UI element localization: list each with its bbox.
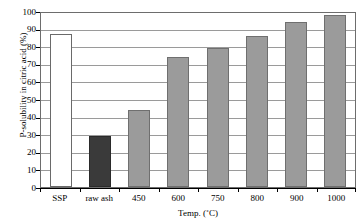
x-axis-tick-marks — [40, 188, 356, 192]
y-tick-label: 100 — [14, 8, 36, 17]
bar-450[interactable] — [128, 110, 150, 187]
x-tick-mark — [277, 188, 278, 192]
x-tick-cell — [317, 188, 357, 192]
y-tick-label: 50 — [14, 96, 36, 105]
x-tick-mark — [198, 188, 199, 192]
x-tick-cell — [80, 188, 120, 192]
x-tick-cell — [40, 188, 80, 192]
x-tick-cell — [238, 188, 278, 192]
bar-slot — [159, 13, 198, 187]
y-tick-label: 70 — [14, 60, 36, 69]
y-axis-tick-labels: 0102030405060708090100 — [14, 12, 36, 188]
bar-slot — [277, 13, 316, 187]
plot-area — [40, 12, 356, 188]
bar-slot — [80, 13, 119, 187]
y-tick-label: 30 — [14, 131, 36, 140]
y-tick-label: 10 — [14, 166, 36, 175]
y-tick-label: 40 — [14, 113, 36, 122]
y-tick-label: 20 — [14, 148, 36, 157]
bars-container — [41, 13, 355, 187]
bar-slot — [316, 13, 355, 187]
x-tick-label: 800 — [238, 193, 278, 204]
bar-slot — [237, 13, 276, 187]
bar-slot — [41, 13, 80, 187]
x-tick-mark — [317, 188, 318, 192]
bar-slot — [198, 13, 237, 187]
x-tick-cell — [198, 188, 238, 192]
x-tick-mark — [80, 188, 81, 192]
bar-750[interactable] — [207, 48, 229, 187]
bar-ssp[interactable] — [50, 34, 72, 187]
bar-900[interactable] — [285, 22, 307, 187]
x-tick-mark — [238, 188, 239, 192]
x-tick-label: 1000 — [317, 193, 357, 204]
bar-chart-figure: P-solubility in citric acid (%) 01020304… — [0, 0, 363, 224]
x-tick-cell — [277, 188, 317, 192]
bar-800[interactable] — [246, 36, 268, 187]
y-tick-label: 80 — [14, 43, 36, 52]
bar-600[interactable] — [167, 57, 189, 187]
x-axis-tick-labels: SSPraw ash4506007508009001000 — [40, 193, 356, 204]
x-tick-label: SSP — [40, 193, 80, 204]
bar-raw-ash[interactable] — [89, 136, 111, 187]
x-tick-mark — [355, 188, 356, 192]
y-tick-label: 0 — [14, 184, 36, 193]
x-tick-label: 750 — [198, 193, 238, 204]
bar-slot — [120, 13, 159, 187]
x-tick-cell — [119, 188, 159, 192]
y-tick-label: 60 — [14, 78, 36, 87]
x-tick-mark — [40, 188, 41, 192]
bar-1000[interactable] — [324, 15, 346, 187]
x-tick-mark — [119, 188, 120, 192]
x-tick-label: raw ash — [80, 193, 120, 204]
x-tick-label: 450 — [119, 193, 159, 204]
x-tick-label: 600 — [159, 193, 199, 204]
x-tick-cell — [159, 188, 199, 192]
x-tick-label: 900 — [277, 193, 317, 204]
x-axis-title: Temp. (˚C) — [40, 208, 356, 218]
x-tick-mark — [159, 188, 160, 192]
y-tick-label: 90 — [14, 25, 36, 34]
